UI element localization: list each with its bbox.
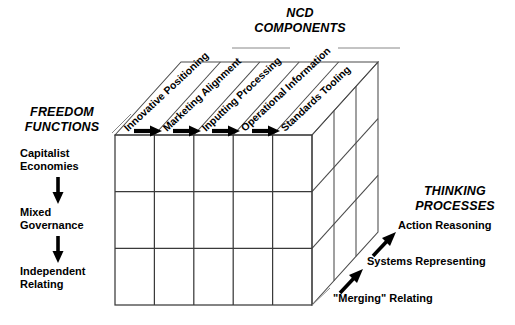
left-axis-label-3: Independent Relating (20, 265, 86, 290)
left-axis-title-line1: FREEDOM (30, 105, 94, 119)
left-axis-title-line2: FUNCTIONS (25, 120, 100, 134)
left-axis-label-2-line1: Mixed (20, 206, 51, 218)
ncd-framework-diagram: NCD COMPONENTS Innovative Positioning Ma… (0, 0, 515, 325)
cube-front-face (115, 135, 312, 305)
right-flow-arrow-2 (340, 269, 363, 293)
left-axis-label-2: Mixed Governance (20, 206, 84, 231)
left-axis-label-1-line1: Capitalist (20, 147, 70, 159)
left-axis-label-1: Capitalist Economies (20, 147, 79, 172)
left-axis-label-3-line1: Independent (20, 265, 86, 277)
right-axis-title-line2: PROCESSES (415, 199, 495, 213)
left-axis-label-3-line2: Relating (20, 278, 63, 290)
left-flow-arrow-2 (53, 236, 64, 263)
top-axis-label-5: Standards Tooling (279, 64, 353, 134)
left-axis-label-2-line2: Governance (20, 219, 84, 231)
top-axis-title-line1: NCD (286, 6, 314, 20)
right-axis-title-line1: THINKING (424, 184, 486, 198)
right-flow-arrow-1 (373, 232, 396, 256)
top-axis-title-line2: COMPONENTS (254, 21, 346, 35)
right-axis-label-3: "Merging" Relating (333, 292, 433, 304)
right-axis-label-1: Action Reasoning (398, 219, 492, 231)
right-axis-leader (312, 288, 330, 305)
left-flow-arrow-1 (53, 177, 64, 204)
left-axis-label-1-line2: Economies (20, 160, 79, 172)
right-axis-label-2: Systems Representing (367, 255, 486, 267)
